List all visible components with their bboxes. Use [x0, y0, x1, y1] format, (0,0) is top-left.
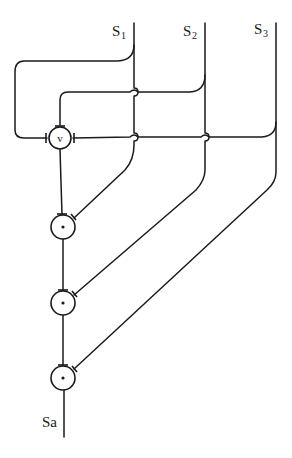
s2-branch [60, 75, 205, 125]
node-and-2 [51, 291, 75, 315]
input-label-s2: S 2 [183, 23, 197, 41]
and-dot [61, 376, 64, 379]
svg-text:S: S [254, 21, 262, 37]
s3-branch [73, 122, 276, 138]
and-dot [61, 225, 64, 228]
input-terminators [46, 126, 77, 372]
input-label-s1: S 1 [112, 23, 126, 41]
svg-text:2: 2 [192, 30, 197, 41]
svg-text:1: 1 [121, 30, 126, 41]
output-label: Sa [42, 414, 57, 430]
chain-or-to-and1 [60, 149, 62, 215]
or-branches [15, 45, 276, 138]
svg-text:S: S [112, 23, 120, 39]
svg-text:S: S [183, 23, 191, 39]
node-or: v [49, 127, 71, 149]
s2-line [74, 23, 209, 295]
s1-line [74, 23, 138, 218]
and-dot [61, 301, 64, 304]
node-and-3 [51, 366, 75, 390]
svg-text:3: 3 [263, 28, 268, 39]
node-and-1 [51, 215, 75, 239]
logic-network-diagram: v S 1 S 2 S 3 Sa [0, 0, 292, 458]
input-label-s3: S 3 [254, 21, 268, 39]
s3-line [74, 23, 276, 369]
input-lines [74, 23, 276, 369]
or-symbol: v [57, 132, 63, 144]
